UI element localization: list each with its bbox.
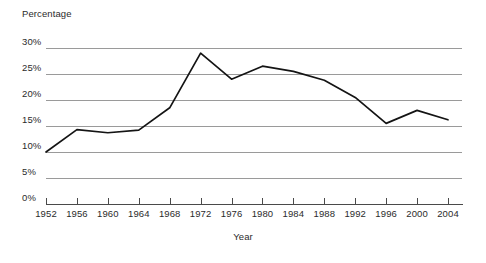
x-axis-tick-label: 1988 [314, 208, 336, 219]
x-axis-title: Year [0, 231, 486, 242]
x-axis-tick-label: 2000 [406, 208, 428, 219]
line-chart: Percentage 0%5%10%15%20%25%30% 195219561… [0, 0, 486, 263]
x-axis-tickmarks [47, 198, 449, 205]
plot-area [0, 0, 486, 263]
y-axis-tick-label: 30% [22, 36, 41, 47]
data-series-line [46, 53, 448, 152]
x-axis-tick-label: 1972 [190, 208, 212, 219]
y-axis-tick-label: 0% [22, 192, 36, 203]
x-axis-tick-label: 1980 [252, 208, 274, 219]
x-axis-tick-label: 1976 [221, 208, 243, 219]
gridlines [46, 49, 463, 205]
x-axis-tick-label: 1964 [128, 208, 150, 219]
x-axis-tick-label: 1952 [35, 208, 57, 219]
y-axis-tick-label: 20% [22, 88, 41, 99]
y-axis-tick-label: 15% [22, 114, 41, 125]
x-axis-tick-label: 1960 [97, 208, 119, 219]
y-axis-tick-label: 5% [22, 166, 36, 177]
x-axis-tick-label: 1956 [66, 208, 88, 219]
x-axis-tick-label: 2004 [437, 208, 459, 219]
y-axis-tick-label: 25% [22, 62, 41, 73]
x-axis-tick-label: 1968 [159, 208, 181, 219]
x-axis-tick-label: 1992 [344, 208, 366, 219]
x-axis-tick-label: 1996 [375, 208, 397, 219]
y-axis-tick-label: 10% [22, 140, 41, 151]
x-axis-tick-label: 1984 [283, 208, 305, 219]
